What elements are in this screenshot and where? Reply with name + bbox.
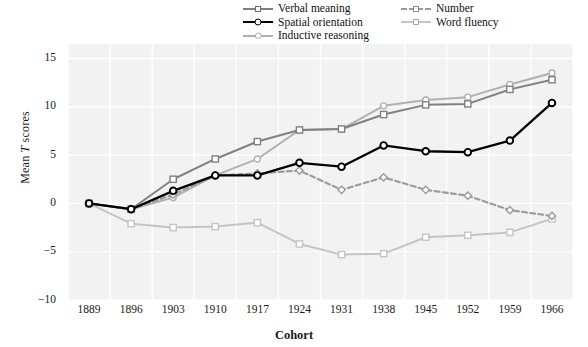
x-axis-tick-label: 1959 bbox=[488, 303, 532, 315]
x-axis-tick-label: 1966 bbox=[530, 303, 574, 315]
data-point-marker bbox=[338, 251, 344, 257]
data-point-marker bbox=[170, 176, 176, 182]
data-point-marker bbox=[212, 223, 218, 229]
plot-area bbox=[0, 0, 588, 347]
data-point-marker bbox=[128, 221, 134, 227]
data-point-marker bbox=[381, 103, 387, 109]
data-point-marker bbox=[381, 251, 387, 257]
data-point-marker bbox=[296, 127, 302, 133]
data-point-marker bbox=[381, 111, 387, 117]
data-point-marker bbox=[549, 77, 555, 83]
x-axis-tick-label: 1924 bbox=[277, 303, 321, 315]
x-axis-tick-label: 1952 bbox=[446, 303, 490, 315]
x-axis-tick-label: 1917 bbox=[235, 303, 279, 315]
data-point-marker bbox=[422, 148, 429, 155]
data-point-marker bbox=[465, 101, 471, 107]
y-axis-tick-label: 10 bbox=[22, 99, 56, 111]
data-point-marker bbox=[212, 156, 218, 162]
x-axis-tick-label: 1889 bbox=[67, 303, 111, 315]
chart-root: Verbal meaning Spatial orientation Induc… bbox=[0, 0, 588, 347]
data-point-marker bbox=[212, 172, 219, 179]
x-axis-tick-label: 1931 bbox=[320, 303, 364, 315]
data-point-marker bbox=[507, 229, 513, 235]
data-point-marker bbox=[86, 200, 93, 207]
data-point-marker bbox=[170, 188, 177, 195]
plot-svg bbox=[0, 0, 588, 347]
data-point-marker bbox=[465, 232, 471, 238]
x-axis-tick-label: 1938 bbox=[362, 303, 406, 315]
y-axis-title-suffix: scores bbox=[18, 111, 32, 145]
data-point-marker bbox=[423, 234, 429, 240]
data-point-marker bbox=[170, 224, 176, 230]
data-point-marker bbox=[549, 100, 556, 107]
data-point-marker bbox=[296, 160, 303, 167]
data-point-marker bbox=[507, 137, 514, 144]
data-point-marker bbox=[464, 149, 471, 156]
data-point-marker bbox=[465, 94, 471, 100]
data-point-marker bbox=[254, 156, 260, 162]
y-axis-tick-label: −10 bbox=[22, 293, 56, 305]
x-axis-tick-label: 1945 bbox=[404, 303, 448, 315]
x-axis-title: Cohort bbox=[0, 328, 588, 343]
data-point-marker bbox=[549, 70, 555, 76]
data-point-marker bbox=[338, 126, 344, 132]
data-point-marker bbox=[380, 142, 387, 149]
x-axis-tick-label: 1896 bbox=[109, 303, 153, 315]
x-axis-tick-label: 1903 bbox=[151, 303, 195, 315]
y-axis-tick-label: 0 bbox=[22, 196, 56, 208]
data-point-marker bbox=[254, 172, 261, 179]
y-axis-tick-label: −5 bbox=[22, 244, 56, 256]
data-point-marker bbox=[254, 220, 260, 226]
y-axis-tick-label: 15 bbox=[22, 51, 56, 63]
data-point-marker bbox=[338, 163, 345, 170]
data-point-marker bbox=[423, 102, 429, 108]
data-point-marker bbox=[296, 241, 302, 247]
data-point-marker bbox=[507, 86, 513, 92]
data-point-marker bbox=[254, 138, 260, 144]
x-axis-tick-label: 1910 bbox=[193, 303, 237, 315]
data-point-marker bbox=[128, 206, 135, 213]
y-axis-tick-label: 5 bbox=[22, 148, 56, 160]
